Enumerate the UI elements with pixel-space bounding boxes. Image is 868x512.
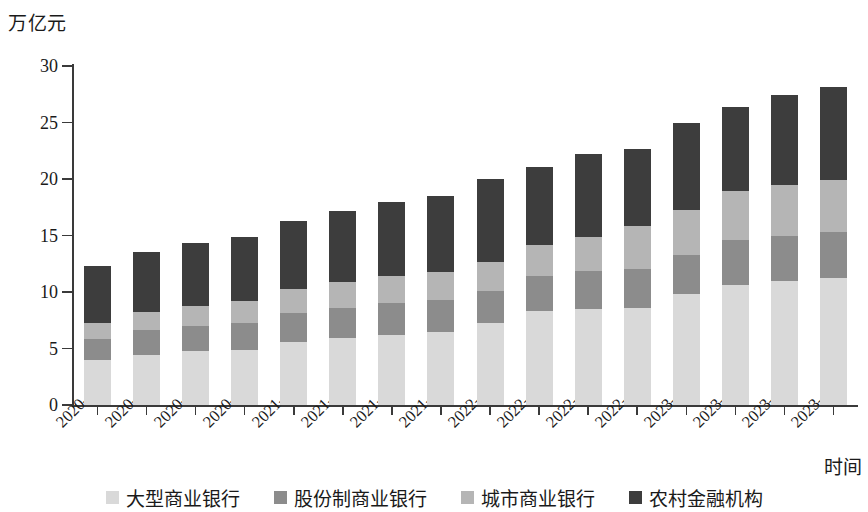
bar-segment[interactable] — [624, 308, 651, 405]
legend-item[interactable]: 农村金融机构 — [629, 484, 763, 511]
x-axis-tick — [587, 406, 589, 415]
bar-segment[interactable] — [722, 240, 749, 285]
legend-swatch-icon — [274, 491, 287, 504]
x-axis-tick — [833, 406, 835, 415]
x-axis-tick — [686, 406, 688, 415]
bar-segment[interactable] — [673, 294, 700, 405]
bar-stack[interactable] — [575, 154, 602, 405]
bar-segment[interactable] — [526, 245, 553, 277]
bar-segment[interactable] — [182, 243, 209, 305]
bar-segment[interactable] — [84, 323, 111, 340]
bar-segment[interactable] — [378, 335, 405, 405]
x-axis-tick — [784, 406, 786, 415]
bar-segment[interactable] — [329, 338, 356, 405]
bar-segment[interactable] — [820, 180, 847, 232]
bar-segment[interactable] — [820, 232, 847, 278]
x-axis-tick — [146, 406, 148, 415]
bar-segment[interactable] — [722, 285, 749, 405]
bar-stack[interactable] — [673, 123, 700, 406]
bar-segment[interactable] — [526, 311, 553, 405]
bar-segment[interactable] — [673, 123, 700, 210]
bar-segment[interactable] — [231, 323, 258, 350]
x-axis-tick — [489, 406, 491, 415]
bar-segment[interactable] — [378, 276, 405, 303]
bar-segment[interactable] — [427, 196, 454, 272]
bar-segment[interactable] — [477, 262, 504, 291]
legend-item[interactable]: 股份制商业银行 — [274, 484, 427, 511]
bar-segment[interactable] — [771, 281, 798, 405]
bar-segment[interactable] — [84, 339, 111, 359]
y-axis-tick — [62, 348, 73, 350]
bar-segment[interactable] — [133, 330, 160, 355]
x-axis-tick — [391, 406, 393, 415]
bar-segment[interactable] — [427, 332, 454, 405]
bar-stack[interactable] — [624, 149, 651, 406]
bar-segment[interactable] — [575, 237, 602, 271]
bar-segment[interactable] — [84, 360, 111, 405]
y-axis-tick — [62, 65, 73, 67]
bar-stack[interactable] — [722, 107, 749, 405]
bar-segment[interactable] — [624, 269, 651, 307]
bar-segment[interactable] — [820, 278, 847, 405]
bar-stack[interactable] — [771, 95, 798, 405]
bar-segment[interactable] — [329, 308, 356, 339]
stacked-bar-chart: 万亿元 时间 051015202530 2020–032020–062020–0… — [0, 0, 868, 512]
bar-segment[interactable] — [182, 351, 209, 405]
bar-segment[interactable] — [329, 211, 356, 282]
x-axis-title: 时间 — [824, 452, 862, 479]
bar-stack[interactable] — [526, 167, 553, 405]
bar-segment[interactable] — [133, 312, 160, 330]
bar-segment[interactable] — [771, 236, 798, 281]
legend-label: 大型商业银行 — [126, 484, 240, 511]
bar-segment[interactable] — [673, 255, 700, 295]
bar-stack[interactable] — [378, 202, 405, 405]
bar-segment[interactable] — [477, 291, 504, 323]
bar-stack[interactable] — [427, 196, 454, 405]
x-axis-tick — [342, 406, 344, 415]
bar-stack[interactable] — [231, 237, 258, 405]
bar-segment[interactable] — [673, 210, 700, 255]
bar-stack[interactable] — [133, 252, 160, 405]
bar-segment[interactable] — [820, 87, 847, 180]
bar-stack[interactable] — [182, 243, 209, 405]
legend-item[interactable]: 城市商业银行 — [461, 484, 595, 511]
bar-stack[interactable] — [84, 266, 111, 405]
bar-segment[interactable] — [771, 185, 798, 236]
legend-item[interactable]: 大型商业银行 — [106, 484, 240, 511]
x-axis-tick — [440, 406, 442, 415]
bar-segment[interactable] — [477, 323, 504, 405]
bar-segment[interactable] — [231, 237, 258, 301]
bar-segment[interactable] — [133, 252, 160, 312]
bar-segment[interactable] — [477, 179, 504, 261]
bar-segment[interactable] — [624, 149, 651, 227]
bar-segment[interactable] — [526, 276, 553, 311]
bar-segment[interactable] — [427, 300, 454, 332]
legend-swatch-icon — [629, 491, 642, 504]
bar-segment[interactable] — [575, 309, 602, 405]
bar-segment[interactable] — [378, 202, 405, 277]
bar-segment[interactable] — [280, 313, 307, 341]
bar-segment[interactable] — [378, 303, 405, 335]
bar-segment[interactable] — [526, 167, 553, 245]
bar-segment[interactable] — [182, 306, 209, 326]
bar-segment[interactable] — [133, 355, 160, 405]
bar-stack[interactable] — [329, 211, 356, 405]
bar-segment[interactable] — [182, 326, 209, 351]
bar-stack[interactable] — [820, 87, 847, 405]
bar-segment[interactable] — [231, 350, 258, 405]
bar-segment[interactable] — [575, 154, 602, 236]
bar-stack[interactable] — [280, 221, 307, 405]
bar-segment[interactable] — [280, 221, 307, 289]
bar-segment[interactable] — [624, 226, 651, 269]
bar-segment[interactable] — [84, 266, 111, 323]
bar-segment[interactable] — [329, 282, 356, 308]
bar-segment[interactable] — [280, 289, 307, 314]
bar-segment[interactable] — [722, 191, 749, 240]
bar-segment[interactable] — [771, 95, 798, 184]
bar-segment[interactable] — [280, 342, 307, 405]
bar-segment[interactable] — [231, 301, 258, 322]
bar-segment[interactable] — [575, 271, 602, 309]
bar-stack[interactable] — [477, 179, 504, 405]
bar-segment[interactable] — [722, 107, 749, 192]
bar-segment[interactable] — [427, 272, 454, 300]
